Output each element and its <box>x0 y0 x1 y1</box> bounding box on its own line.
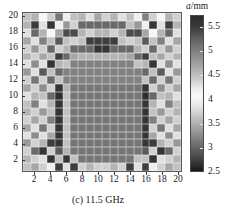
heatmap-cell <box>94 53 102 61</box>
heatmap-cell <box>86 108 94 116</box>
heatmap-cell <box>55 68 63 76</box>
heatmap-cell <box>134 139 142 147</box>
heatmap-cell <box>86 139 94 147</box>
heatmap-cell <box>47 100 55 108</box>
heatmap-cell <box>110 60 118 68</box>
heatmap-cell <box>157 76 165 84</box>
heatmap-cell <box>102 92 110 100</box>
heatmap-cell <box>149 116 157 124</box>
heatmap-plot-area <box>22 12 182 172</box>
x-axis-tick-mark <box>146 172 147 175</box>
heatmap-cell <box>149 132 157 140</box>
heatmap-cell <box>134 100 142 108</box>
heatmap-cell <box>157 53 165 61</box>
heatmap-cell <box>23 116 31 124</box>
heatmap-cell <box>142 100 150 108</box>
y-axis-tick-label: 18 <box>9 27 19 37</box>
heatmap-cell <box>149 37 157 45</box>
heatmap-cell <box>142 45 150 53</box>
heatmap-cell <box>126 37 134 45</box>
heatmap-cell <box>39 108 47 116</box>
heatmap-cell <box>118 139 126 147</box>
heatmap-cell <box>55 13 63 21</box>
heatmap-cell <box>78 84 86 92</box>
colorbar-tick-label: 4.5 <box>208 71 220 81</box>
heatmap-cell <box>118 92 126 100</box>
y-axis-tick-label: 10 <box>9 91 19 101</box>
colorbar-title: a/mm <box>186 1 208 11</box>
heatmap-cell <box>39 53 47 61</box>
heatmap-cell <box>39 21 47 29</box>
heatmap-cell <box>78 124 86 132</box>
heatmap-cell <box>55 29 63 37</box>
x-axis-tick-mark <box>130 172 131 175</box>
heatmap-cell <box>149 155 157 163</box>
heatmap-cell <box>126 100 134 108</box>
heatmap-cell <box>149 60 157 68</box>
heatmap-cell <box>165 92 173 100</box>
heatmap-cell <box>55 37 63 45</box>
heatmap-cell <box>102 147 110 155</box>
heatmap-cell <box>157 147 165 155</box>
heatmap-cell <box>70 53 78 61</box>
heatmap-cell <box>86 29 94 37</box>
heatmap-cell <box>94 84 102 92</box>
x-axis-tick-mark <box>178 172 179 175</box>
y-axis-tick-mark <box>22 64 25 65</box>
heatmap-cell <box>149 76 157 84</box>
heatmap-cell <box>173 124 181 132</box>
heatmap-cell <box>102 108 110 116</box>
heatmap-cell <box>78 13 86 21</box>
heatmap-cell <box>165 76 173 84</box>
x-axis-tick-label: 14 <box>125 175 135 185</box>
heatmap-cell <box>165 100 173 108</box>
heatmap-cell <box>118 37 126 45</box>
heatmap-cell <box>47 84 55 92</box>
heatmap-cell <box>118 132 126 140</box>
heatmap-cell <box>86 155 94 163</box>
heatmap-cell <box>142 92 150 100</box>
heatmap-cell <box>102 100 110 108</box>
heatmap-cell <box>110 68 118 76</box>
heatmap-cell <box>157 13 165 21</box>
heatmap-cell <box>31 76 39 84</box>
heatmap-cell <box>149 29 157 37</box>
heatmap-cell <box>173 68 181 76</box>
heatmap-cell <box>126 76 134 84</box>
heatmap-cell <box>134 108 142 116</box>
heatmap-cell <box>165 124 173 132</box>
heatmap-cell <box>165 60 173 68</box>
heatmap-cell <box>70 68 78 76</box>
heatmap-cell <box>134 84 142 92</box>
heatmap-cell <box>70 100 78 108</box>
heatmap-cell <box>165 68 173 76</box>
heatmap-cell <box>23 68 31 76</box>
heatmap-cell <box>63 29 71 37</box>
heatmap-cell <box>55 100 63 108</box>
heatmap-cell <box>149 163 157 171</box>
heatmap-cell <box>55 60 63 68</box>
heatmap-cell <box>47 132 55 140</box>
y-axis-tick-mark <box>22 48 25 49</box>
heatmap-cell <box>118 29 126 37</box>
heatmap-cell <box>173 37 181 45</box>
heatmap-cell <box>126 116 134 124</box>
heatmap-cell <box>86 76 94 84</box>
heatmap-cell <box>118 116 126 124</box>
heatmap-cell <box>63 76 71 84</box>
colorbar-tick-mark <box>200 124 203 125</box>
y-axis-tick-mark <box>22 112 25 113</box>
heatmap-cell <box>86 132 94 140</box>
heatmap-cell <box>39 37 47 45</box>
heatmap-cell <box>142 60 150 68</box>
heatmap-cell <box>78 116 86 124</box>
y-axis-tick-mark <box>22 32 25 33</box>
colorbar-tick-mark <box>200 100 203 101</box>
heatmap-cell <box>70 92 78 100</box>
heatmap-cell <box>63 37 71 45</box>
heatmap-cell <box>31 45 39 53</box>
heatmap-cell <box>134 53 142 61</box>
heatmap-cell <box>86 84 94 92</box>
heatmap-cell <box>134 155 142 163</box>
heatmap-cell <box>110 21 118 29</box>
